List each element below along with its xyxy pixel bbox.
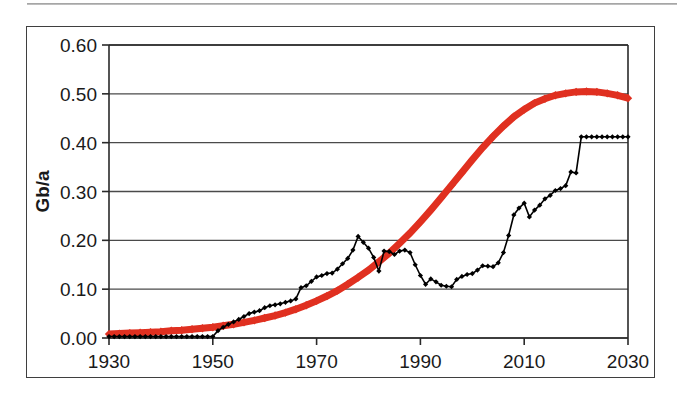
y-tick-label-0: 0.00 bbox=[60, 328, 97, 349]
x-tick-label-5: 2030 bbox=[607, 351, 649, 372]
x-tick-label-4: 2010 bbox=[503, 351, 545, 372]
x-tick-label-3: 1990 bbox=[399, 351, 441, 372]
figure-page: 0.000.100.200.300.400.500.60 19301950197… bbox=[0, 0, 679, 401]
y-tick-label-5: 0.50 bbox=[60, 84, 97, 105]
page-top-rule bbox=[27, 3, 677, 5]
x-tick-label-1: 1950 bbox=[192, 351, 234, 372]
x-tick-label-0: 1930 bbox=[88, 351, 130, 372]
y-tick-label-4: 0.40 bbox=[60, 133, 97, 154]
chart-canvas: 0.000.100.200.300.400.500.60 19301950197… bbox=[27, 27, 653, 376]
chart-background bbox=[27, 27, 653, 376]
y-tick-label-6: 0.60 bbox=[60, 35, 97, 56]
y-tick-label-2: 0.20 bbox=[60, 230, 97, 251]
y-axis-title: Gb/a bbox=[32, 170, 53, 213]
x-tick-label-2: 1970 bbox=[295, 351, 337, 372]
chart-figure-frame: 0.000.100.200.300.400.500.60 19301950197… bbox=[26, 26, 655, 378]
y-tick-label-3: 0.30 bbox=[60, 182, 97, 203]
y-tick-label-1: 0.10 bbox=[60, 279, 97, 300]
